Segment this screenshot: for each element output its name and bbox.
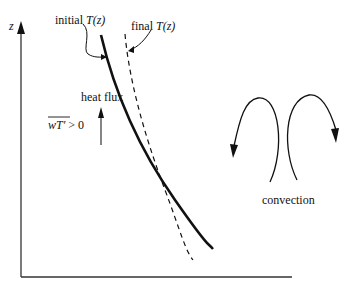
- initial-temperature-label: initial T(z): [55, 14, 105, 26]
- final-temperature-label: final T(z): [131, 20, 175, 32]
- convection-label: convection: [262, 194, 315, 206]
- flux-condition-label: wT′ > 0: [48, 119, 84, 131]
- final-temperature-curve: [125, 34, 193, 260]
- initial-temperature-curve: [101, 35, 213, 249]
- heat-flux-arrow-icon: [98, 107, 104, 145]
- final-leader-arrowhead: [128, 46, 134, 53]
- diagram-canvas: [0, 0, 353, 289]
- z-axis-label: z: [9, 20, 14, 32]
- z-axis: [17, 21, 25, 277]
- convection-right-loop-icon: [288, 95, 339, 180]
- convection-left-loop-icon: [230, 98, 279, 182]
- heat-flux-label: heat flux: [81, 91, 123, 103]
